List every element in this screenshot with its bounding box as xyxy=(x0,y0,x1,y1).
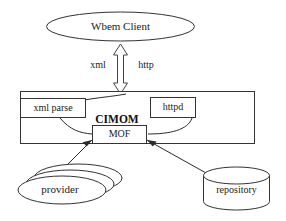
edge-client-cimom[interactable] xyxy=(114,44,128,94)
diagram-svg: Wbem Client xml http CIMOM xml parse htt… xyxy=(0,0,286,221)
node-provider[interactable]: provider xyxy=(18,164,122,204)
edge-label-http: http xyxy=(138,59,154,70)
wbem-client-label: Wbem Client xyxy=(91,20,150,32)
repository-label: repository xyxy=(216,184,257,195)
httpd-label: httpd xyxy=(163,101,184,112)
mof-label: MOF xyxy=(109,128,131,139)
hollow-double-arrow-icon xyxy=(114,44,128,94)
xml-parse-label: xml parse xyxy=(33,102,73,113)
provider-label: provider xyxy=(41,183,79,195)
node-httpd[interactable]: httpd xyxy=(151,98,196,118)
edge-label-xml: xml xyxy=(90,59,106,70)
node-mof[interactable]: MOF xyxy=(93,126,147,144)
node-xml-parse[interactable]: xml parse xyxy=(21,99,86,118)
node-repository[interactable]: repository xyxy=(204,167,270,210)
edge-mof-repository[interactable] xyxy=(147,140,215,178)
diagram-canvas: Wbem Client xml http CIMOM xml parse htt… xyxy=(0,0,286,221)
mof-repository-line xyxy=(147,140,215,178)
cimom-title-label: CIMOM xyxy=(95,113,139,125)
node-wbem-client[interactable]: Wbem Client xyxy=(47,12,195,41)
repository-top-ellipse xyxy=(204,167,270,184)
